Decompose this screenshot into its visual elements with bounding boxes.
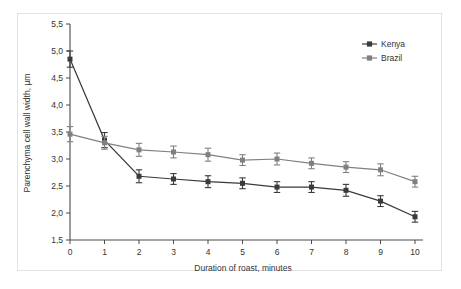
x-tick-label: 3 [171, 247, 176, 257]
data-point-marker [413, 214, 418, 219]
series-line [70, 59, 415, 217]
x-tick-label: 0 [68, 247, 73, 257]
data-point-marker [137, 174, 142, 179]
x-tick-label: 1 [102, 247, 107, 257]
x-tick-label: 9 [378, 247, 383, 257]
x-tick-label: 6 [275, 247, 280, 257]
y-tick-label: 3,5 [51, 127, 63, 137]
data-point-marker [137, 147, 142, 152]
legend-item-kenya[interactable]: Kenya [362, 39, 405, 49]
x-tick-label: 8 [344, 247, 349, 257]
data-point-marker [344, 188, 349, 193]
data-point-marker [68, 132, 73, 137]
data-series-group [67, 51, 418, 222]
x-tick-labels: 012345678910 [68, 247, 420, 257]
y-axis-title: Parenchyma cell wall width, µm [22, 74, 32, 193]
data-point-marker [171, 149, 176, 154]
data-point-marker [275, 185, 280, 190]
data-point-marker [171, 176, 176, 181]
data-point-marker [413, 179, 418, 184]
legend-label: Kenya [381, 39, 405, 49]
x-tick-label: 10 [410, 247, 420, 257]
data-point-marker [206, 179, 211, 184]
series-kenya [67, 51, 418, 222]
data-point-marker [102, 140, 107, 145]
y-tick-label: 1,5 [51, 235, 63, 245]
x-tick-label: 7 [309, 247, 314, 257]
y-tick-label: 4,5 [51, 73, 63, 83]
data-point-marker [309, 161, 314, 166]
legend-item-brazil[interactable]: Brazil [362, 53, 402, 63]
data-point-marker [378, 199, 383, 204]
data-point-marker [240, 181, 245, 186]
y-tick-label: 2,0 [51, 208, 63, 218]
y-tick-label: 5,5 [51, 19, 63, 29]
data-point-marker [240, 158, 245, 163]
y-tick-label: 5,0 [51, 46, 63, 56]
x-axis-title: Duration of roast, minutes [194, 263, 291, 273]
y-tick-label: 3,0 [51, 154, 63, 164]
data-point-marker [68, 57, 73, 62]
chart-root: 1,52,02,53,03,54,04,55,05,5 012345678910… [0, 0, 461, 289]
data-point-marker [309, 185, 314, 190]
legend-marker [367, 55, 372, 60]
x-tick-label: 2 [137, 247, 142, 257]
y-tick-label: 2,5 [51, 181, 63, 191]
y-tick-label: 4,0 [51, 100, 63, 110]
x-tick-label: 5 [240, 247, 245, 257]
x-tick-label: 4 [206, 247, 211, 257]
chart-plot-area: 1,52,02,53,03,54,04,55,05,5 012345678910… [0, 0, 461, 289]
data-point-marker [275, 157, 280, 162]
legend: KenyaBrazil [362, 39, 405, 63]
data-point-marker [206, 152, 211, 157]
legend-label: Brazil [381, 53, 402, 63]
data-point-marker [344, 165, 349, 170]
legend-marker [367, 41, 372, 46]
data-point-marker [378, 167, 383, 172]
y-tick-labels: 1,52,02,53,03,54,04,55,05,5 [51, 19, 63, 245]
